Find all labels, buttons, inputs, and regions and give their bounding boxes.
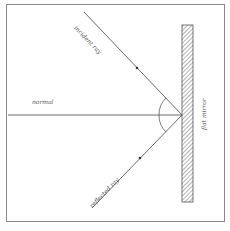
angle-of-reflection-arc [159,115,166,132]
normal-label: normal [32,98,54,105]
incident-ray [84,12,182,115]
reflected-arrow-icon [139,157,142,160]
flat-mirror [182,25,193,202]
incident-arrow-icon [136,67,139,70]
mirror-label: flat mirror [200,98,207,130]
angle-of-incidence-arc [159,98,166,115]
reflection-diagram [0,0,230,231]
